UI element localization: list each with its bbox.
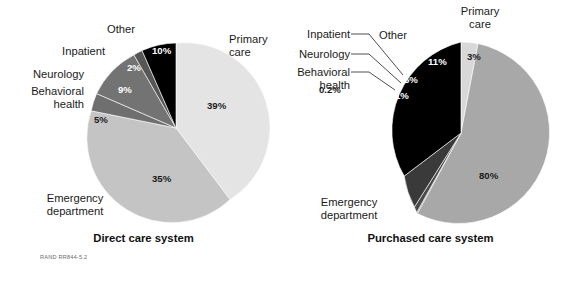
value-other: 11%	[428, 56, 447, 67]
chart-panel-purchased-care: Primary care Emergency department Behavi…	[287, 0, 574, 282]
value-inpatient: 5%	[404, 74, 418, 85]
value-emergency-department: 80%	[479, 170, 498, 181]
panel-title-purchased-care: Purchased care system	[287, 232, 574, 244]
source-note: RAND RR844-5.2	[40, 254, 87, 260]
value-behavioral-health: 0.2%	[319, 84, 341, 95]
label-neurology: Neurology	[16, 68, 84, 81]
label-inpatient: Inpatient	[287, 28, 350, 41]
label-emergency-department: Emergency department	[301, 196, 397, 222]
label-primary-care: Primary care	[229, 33, 285, 59]
leader-line-behavioral-health-stem	[369, 72, 395, 90]
value-other: 10%	[152, 45, 171, 56]
value-neurology: 1%	[395, 90, 409, 101]
label-other: Other	[93, 23, 149, 36]
value-neurology: 9%	[118, 84, 132, 95]
label-emergency-department: Emergency department	[27, 192, 123, 218]
chart-panel-direct-care: Primary care Emergency department Behavi…	[0, 0, 287, 282]
value-primary-care: 3%	[467, 51, 481, 62]
panel-title-direct-care: Direct care system	[0, 232, 287, 244]
label-behavioral-health: Behavioral health	[4, 85, 84, 111]
figure-two-pie-charts: Primary care Emergency department Behavi…	[0, 0, 574, 282]
value-inpatient: 2%	[127, 62, 141, 73]
label-primary-care: Primary care	[445, 5, 515, 31]
value-primary-care: 39%	[207, 100, 226, 111]
value-emergency-department: 35%	[152, 173, 171, 184]
label-inpatient: Inpatient	[40, 45, 105, 58]
value-behavioral-health: 5%	[94, 114, 108, 125]
label-neurology: Neurology	[287, 48, 350, 61]
leader-line-neurology-stem	[369, 54, 401, 83]
label-other: Other	[365, 29, 421, 42]
